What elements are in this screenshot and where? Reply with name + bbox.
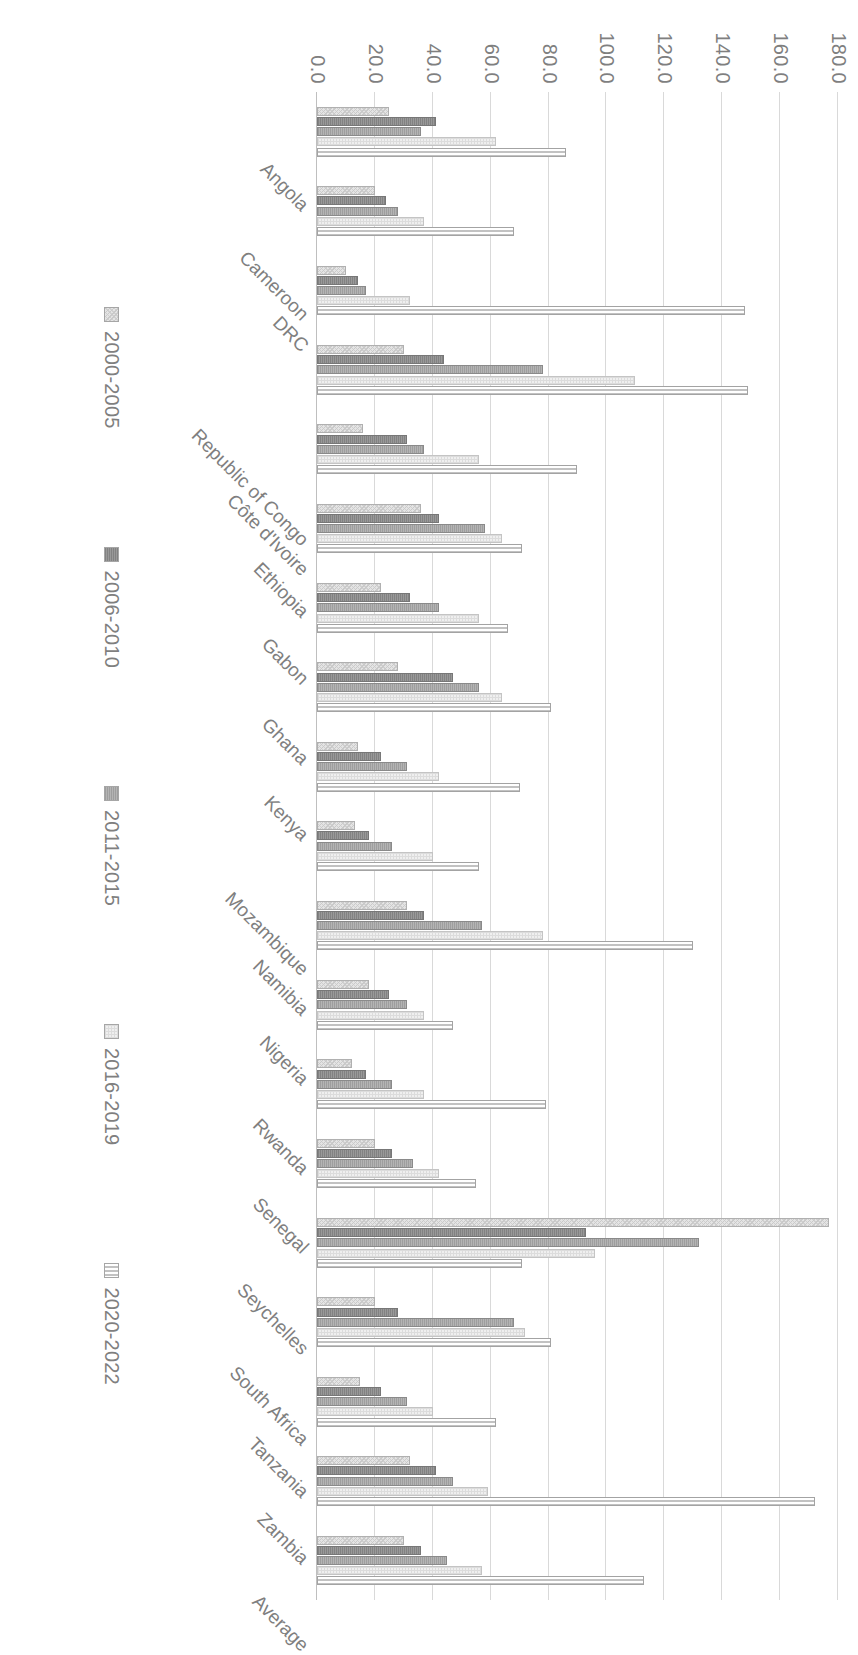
bar[interactable] [317,980,369,989]
bar[interactable] [317,435,407,444]
bar[interactable] [317,1397,407,1406]
bar[interactable] [317,683,479,692]
bar[interactable] [317,1090,424,1099]
bar[interactable] [317,831,369,840]
bar[interactable] [317,1149,392,1158]
bar[interactable] [317,424,363,433]
legend-item[interactable]: 2020-2022 [100,1263,123,1384]
bar[interactable] [317,227,514,236]
bar[interactable] [317,703,551,712]
bar[interactable] [317,624,508,633]
bar[interactable] [317,1228,586,1237]
bar[interactable] [317,1387,381,1396]
bar[interactable] [317,1100,546,1109]
bar[interactable] [317,593,410,602]
bar[interactable] [317,1576,644,1585]
bar[interactable] [317,1179,476,1188]
bar[interactable] [317,783,520,792]
bar[interactable] [317,852,433,861]
bar[interactable] [317,1466,436,1475]
bar[interactable] [317,1080,392,1089]
legend-item[interactable]: 2000-2005 [100,307,123,428]
bar[interactable] [317,742,358,751]
bar[interactable] [317,673,453,682]
bar[interactable] [317,614,479,623]
bar[interactable] [317,772,439,781]
bar[interactable] [317,445,424,454]
bar[interactable] [317,1169,439,1178]
bar[interactable] [317,544,523,553]
bar[interactable] [317,196,386,205]
bar[interactable] [317,941,693,950]
bar[interactable] [317,514,439,523]
bar[interactable] [317,365,543,374]
bar[interactable] [317,603,439,612]
bar[interactable] [317,286,366,295]
bar[interactable] [317,296,410,305]
bar[interactable] [317,1407,433,1416]
bar[interactable] [317,117,436,126]
bar[interactable] [317,921,482,930]
bar[interactable] [317,186,375,195]
bar[interactable] [317,1487,488,1496]
bar[interactable] [317,107,389,116]
bar[interactable] [317,1139,375,1148]
bar[interactable] [317,752,381,761]
bar[interactable] [317,1377,360,1386]
bar[interactable] [317,306,745,315]
bar[interactable] [317,1308,398,1317]
bar[interactable] [317,821,355,830]
bar[interactable] [317,1566,482,1575]
bar[interactable] [317,693,502,702]
bar[interactable] [317,137,496,146]
bar[interactable] [317,1249,595,1258]
legend-item[interactable]: 2011-2015 [100,786,123,906]
bar[interactable] [317,842,392,851]
bar[interactable] [317,1497,815,1506]
bar[interactable] [317,1546,421,1555]
legend-item[interactable]: 2016-2019 [100,1024,123,1145]
bar[interactable] [317,1556,447,1565]
bar[interactable] [317,1477,453,1486]
bar[interactable] [317,1338,551,1347]
bar[interactable] [317,1456,410,1465]
bar[interactable] [317,931,543,940]
bar[interactable] [317,1218,829,1227]
bar[interactable] [317,504,421,513]
bar[interactable] [317,355,444,364]
bar[interactable] [317,1159,413,1168]
bar[interactable] [317,127,421,136]
bar[interactable] [317,1328,525,1337]
bar[interactable] [317,1000,407,1009]
bar[interactable] [317,1418,496,1427]
bar[interactable] [317,345,404,354]
bar[interactable] [317,911,424,920]
bar[interactable] [317,534,502,543]
bar[interactable] [317,455,479,464]
bar[interactable] [317,1238,699,1247]
bar[interactable] [317,1059,352,1068]
bar[interactable] [317,376,635,385]
bar[interactable] [317,1070,366,1079]
bar[interactable] [317,276,358,285]
bar[interactable] [317,762,407,771]
bar[interactable] [317,148,566,157]
bar[interactable] [317,1297,375,1306]
legend-item[interactable]: 2006-2010 [100,547,123,668]
bar[interactable] [317,662,398,671]
bar[interactable] [317,217,424,226]
bar[interactable] [317,1259,523,1268]
bar[interactable] [317,583,381,592]
bar[interactable] [317,1011,424,1020]
bar[interactable] [317,901,407,910]
bar[interactable] [317,465,578,474]
bar[interactable] [317,524,485,533]
bar[interactable] [317,207,398,216]
bar[interactable] [317,862,479,871]
bar[interactable] [317,1318,514,1327]
bar[interactable] [317,1536,404,1545]
bar[interactable] [317,1021,453,1030]
bar[interactable] [317,990,389,999]
bar[interactable] [317,266,346,275]
bar[interactable] [317,386,748,395]
